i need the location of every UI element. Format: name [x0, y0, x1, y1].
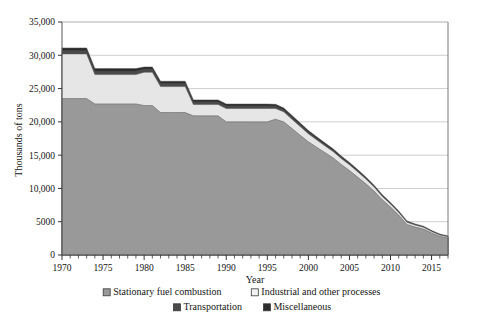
legend-item-0[interactable]: Stationary fuel combustion: [103, 286, 221, 297]
x-tick-label: 2015: [422, 263, 441, 273]
x-tick-label: 2005: [340, 263, 359, 273]
y-tick-label: 20,000: [29, 117, 55, 127]
legend-swatch-industrial: [251, 289, 258, 296]
chart-page: 0500010,00015,00020,00025,00030,00035,00…: [0, 0, 478, 320]
legend-group: Stationary fuel combustionIndustrial and…: [103, 286, 380, 312]
stacked-area-chart-figure: 0500010,00015,00020,00025,00030,00035,00…: [0, 0, 478, 320]
legend-label-3: Miscellaneous: [273, 301, 331, 312]
y-tick-label: 5000: [36, 217, 55, 227]
x-axis-title: Year: [246, 274, 265, 285]
x-tick-group: [62, 255, 448, 260]
legend-swatch-miscellaneous: [263, 304, 270, 311]
x-tick-label: 1980: [135, 263, 154, 273]
x-tick-label: 1985: [176, 263, 195, 273]
x-tick-label: 1970: [53, 263, 72, 273]
chart-svg: 0500010,00015,00020,00025,00030,00035,00…: [0, 0, 478, 320]
legend-item-1[interactable]: Industrial and other processes: [251, 286, 380, 297]
y-tick-label: 0: [50, 250, 55, 260]
legend-label-1: Industrial and other processes: [261, 286, 380, 297]
y-tick-group: [58, 22, 62, 255]
x-tick-label: 1975: [94, 263, 113, 273]
x-tick-label: 1995: [258, 263, 277, 273]
x-tick-label: 1990: [217, 263, 236, 273]
y-axis-title: Thousands of tons: [13, 103, 24, 176]
y-tick-label: 10,000: [29, 184, 55, 194]
y-tick-label: 25,000: [29, 84, 55, 94]
legend-item-3[interactable]: Miscellaneous: [263, 301, 331, 312]
area-series-group: [62, 48, 448, 255]
x-tick-label-group: 1970197519801985199019952000200520102015: [53, 263, 442, 273]
legend-label-0: Stationary fuel combustion: [113, 286, 221, 297]
legend-swatch-transportation: [174, 304, 181, 311]
legend-item-2[interactable]: Transportation: [174, 301, 243, 312]
legend-label-2: Transportation: [184, 301, 243, 312]
y-tick-label-group: 0500010,00015,00020,00025,00030,00035,00…: [29, 17, 55, 260]
y-tick-label: 35,000: [29, 17, 55, 27]
x-tick-label: 2000: [299, 263, 318, 273]
legend-swatch-stationary: [103, 289, 110, 296]
x-tick-label: 2010: [381, 263, 400, 273]
y-tick-label: 15,000: [29, 151, 55, 161]
y-tick-label: 30,000: [29, 51, 55, 61]
